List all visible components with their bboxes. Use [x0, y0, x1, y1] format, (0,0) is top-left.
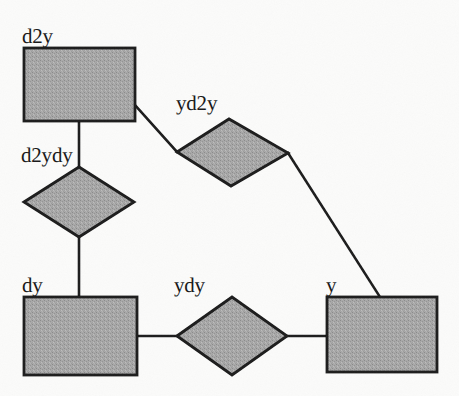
- entity-box-y[interactable]: [327, 297, 437, 372]
- relationship-diamond-yd2y[interactable]: [177, 119, 288, 186]
- relationship-label-ydy: ydy: [174, 275, 205, 296]
- entity-box-dy[interactable]: [24, 297, 137, 375]
- entity-box-d2y[interactable]: [24, 48, 135, 121]
- relationship-diamond-d2ydy[interactable]: [24, 167, 134, 237]
- relationship-label-yd2y: yd2y: [176, 93, 217, 114]
- entity-label-dy: dy: [22, 275, 43, 296]
- relationship-diamond-ydy[interactable]: [177, 297, 287, 375]
- edge-d2y-to-yd2y: [135, 105, 177, 152]
- diagram-svg: [0, 0, 459, 396]
- relationship-label-d2ydy: d2ydy: [21, 145, 73, 166]
- entity-label-y: y: [326, 275, 336, 296]
- entity-label-d2y: d2y: [22, 26, 53, 47]
- er-diagram-canvas: d2y dy y d2ydy ydy yd2y: [0, 0, 459, 396]
